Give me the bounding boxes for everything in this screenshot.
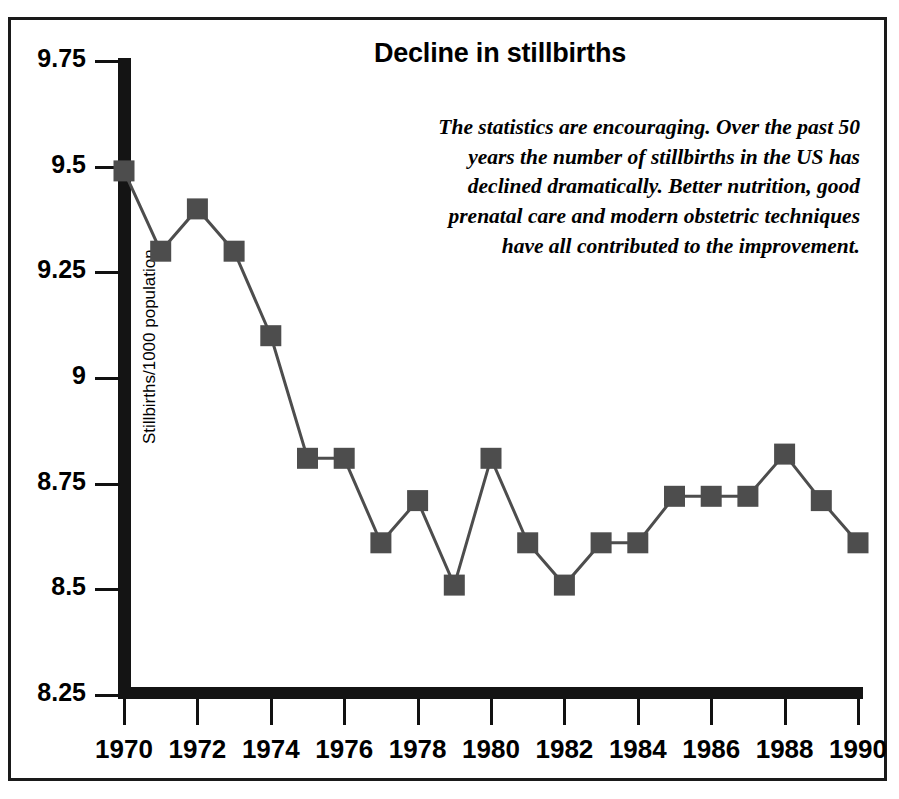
y-tick-mark <box>95 483 120 486</box>
data-point-marker <box>737 486 758 507</box>
x-tick-mark <box>784 699 787 725</box>
data-point-marker <box>334 448 355 469</box>
data-point-marker <box>260 325 281 346</box>
data-point-marker <box>481 448 502 469</box>
plot-area: Decline in stillbirths 8.258.58.7599.259… <box>0 0 899 799</box>
y-tick-mark <box>95 271 120 274</box>
y-tick-label: 8.5 <box>0 572 86 601</box>
y-tick-label: 8.25 <box>0 678 86 707</box>
data-point-marker <box>444 575 465 596</box>
y-tick-mark <box>95 588 120 591</box>
y-tick-mark <box>95 60 120 63</box>
data-point-marker <box>811 490 832 511</box>
x-tick-label: 1990 <box>798 734 899 765</box>
x-tick-mark <box>196 699 199 725</box>
data-point-marker <box>517 532 538 553</box>
data-point-marker <box>701 486 722 507</box>
data-point-marker <box>664 486 685 507</box>
data-point-marker <box>370 532 391 553</box>
data-point-marker <box>187 198 208 219</box>
data-point-marker <box>554 575 575 596</box>
data-point-marker <box>848 532 869 553</box>
y-axis-title: Stillbirths/1000 population <box>140 249 160 444</box>
x-tick-mark <box>637 699 640 725</box>
y-tick-label: 8.75 <box>0 467 86 496</box>
x-tick-mark <box>857 699 860 725</box>
data-point-marker <box>224 241 245 262</box>
x-tick-mark <box>270 699 273 725</box>
y-tick-mark <box>95 166 120 169</box>
data-point-marker <box>627 532 648 553</box>
chart-title: Decline in stillbirths <box>180 38 820 69</box>
y-tick-label: 9 <box>0 361 86 390</box>
x-tick-mark <box>417 699 420 725</box>
data-point-marker <box>407 490 428 511</box>
chart-figure: Decline in stillbirths 8.258.58.7599.259… <box>0 0 899 799</box>
data-point-marker <box>591 532 612 553</box>
x-tick-mark <box>563 699 566 725</box>
x-axis <box>118 687 863 699</box>
x-tick-mark <box>490 699 493 725</box>
x-tick-mark <box>343 699 346 725</box>
data-point-marker <box>297 448 318 469</box>
x-tick-mark <box>710 699 713 725</box>
data-point-marker <box>774 444 795 465</box>
y-tick-label: 9.5 <box>0 150 86 179</box>
annotation-text: The statistics are encouraging. Over the… <box>430 113 860 261</box>
y-tick-mark <box>95 377 120 380</box>
y-tick-label: 9.25 <box>0 255 86 284</box>
x-tick-mark <box>123 699 126 725</box>
y-tick-mark <box>95 694 120 697</box>
y-tick-label: 9.75 <box>0 44 86 73</box>
